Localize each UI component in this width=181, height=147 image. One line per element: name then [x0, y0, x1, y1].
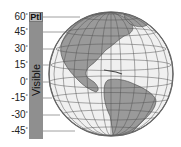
- latitude-tick-minus-30: -30°: [0, 110, 28, 120]
- latitude-tick-30: 30°: [0, 44, 28, 54]
- globe-diagram: [0, 0, 181, 147]
- latitude-tick-minus-15: -15°: [0, 93, 28, 103]
- latitude-tick-60: 60°: [0, 12, 28, 22]
- visible-label-region: Visible: [29, 55, 43, 105]
- latitude-tick-0: 0°: [0, 77, 28, 87]
- visible-label: Visible: [30, 64, 42, 96]
- ptl-label: Ptl: [30, 12, 42, 22]
- partial-label-box: Ptl: [29, 12, 43, 22]
- latitude-tick-15: 15°: [0, 60, 28, 70]
- latitude-tick-minus-45: -45°: [0, 126, 28, 136]
- latitude-tick-45: 45°: [0, 27, 28, 37]
